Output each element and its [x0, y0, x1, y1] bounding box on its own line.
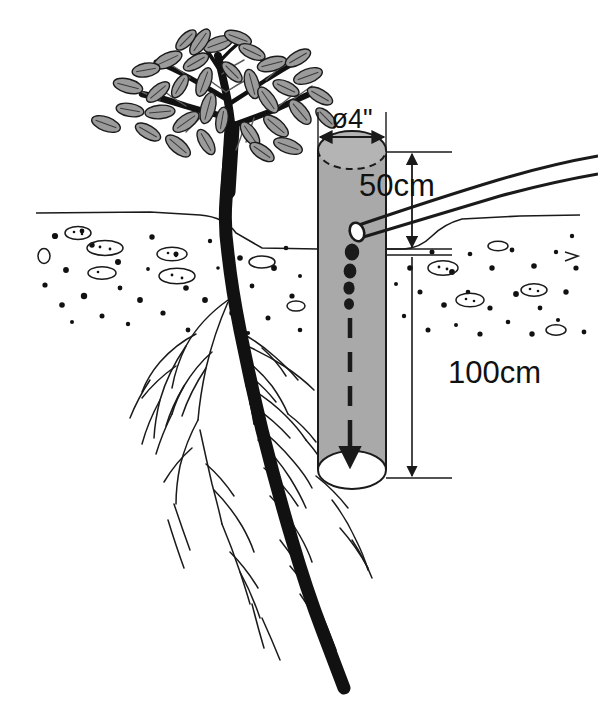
ground-line-left: [36, 212, 318, 249]
dimension-below-ground: 100cm: [386, 255, 541, 478]
soil-pebbles: [38, 227, 578, 336]
leaf-canopy: [90, 26, 340, 166]
soil-particles: [42, 229, 586, 337]
above-ground-depth-label: 50cm: [359, 168, 435, 203]
soil-cross-section: [36, 212, 586, 337]
diameter-label: ø4": [331, 104, 372, 134]
tree-watering-diagram: ø4" 50cm 100cm: [0, 0, 598, 722]
below-ground-depth-label: 100cm: [448, 355, 541, 390]
trunk-base: [228, 128, 232, 192]
diagram-canvas: ø4" 50cm 100cm: [0, 0, 598, 722]
